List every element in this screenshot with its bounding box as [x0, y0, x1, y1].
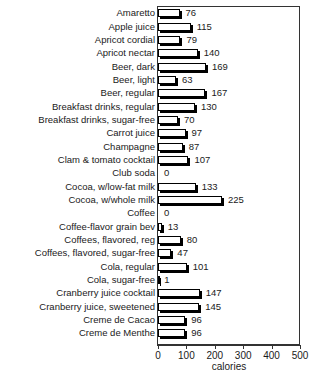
bar-row: Cranberry juice, sweetened145 [0, 301, 310, 314]
bar-row: Cocoa, w/whole milk225 [0, 194, 310, 207]
bar-row: Apricot cordial79 [0, 34, 310, 47]
bar-value-label: 13 [168, 222, 179, 232]
category-label: Beer, regular [101, 88, 155, 98]
bar-value-label: 97 [192, 128, 203, 138]
bar [158, 76, 176, 84]
category-label: Cocoa, w/whole milk [68, 195, 155, 205]
bar-value-label: 96 [191, 315, 202, 325]
bar [158, 223, 162, 231]
bar-value-label: 145 [205, 302, 221, 312]
bar-value-label: 96 [191, 328, 202, 338]
bar-row: Cola, sugar-free1 [0, 274, 310, 287]
bar [158, 263, 187, 271]
category-label: Amaretto [116, 8, 155, 18]
category-label: Apple juice [109, 22, 155, 32]
category-label: Cranberry juice cocktail [56, 288, 155, 298]
bar-value-label: 79 [186, 35, 197, 45]
bar-fill [158, 249, 171, 257]
bar-value-label: 87 [189, 142, 200, 152]
bar-fill [158, 49, 198, 57]
bar-row: Beer, dark169 [0, 61, 310, 74]
bar [158, 289, 200, 297]
bar-value-label: 70 [184, 115, 195, 125]
category-label: Coffees, flavored, reg [64, 235, 155, 245]
bar-row: Apple juice115 [0, 21, 310, 34]
bar-row: Amaretto76 [0, 7, 310, 20]
bar [158, 9, 180, 17]
bar-fill [158, 116, 178, 124]
bar-fill [158, 329, 185, 337]
x-tick-label: 100 [178, 350, 195, 361]
category-label: Breakfast drinks, sugar-free [38, 115, 155, 125]
category-label: Apricot nectar [96, 48, 155, 58]
bar-fill [158, 143, 183, 151]
x-tick-label: 500 [292, 350, 309, 361]
bar [158, 143, 183, 151]
bar [158, 316, 185, 324]
bar-row: Creme de Menthe96 [0, 327, 310, 340]
bar [158, 249, 171, 257]
bar-value-label: 0 [164, 168, 169, 178]
x-axis-title: calories [157, 361, 301, 372]
bar-row: Coffees, flavored, sugar-free47 [0, 247, 310, 260]
bar-value-label: 76 [186, 8, 197, 18]
category-label: Coffee-flavor grain bev [59, 222, 155, 232]
bar-fill [158, 156, 188, 164]
category-label: Coffee [127, 208, 155, 218]
bar-row: Creme de Cacao96 [0, 314, 310, 327]
bar [158, 196, 222, 204]
x-tick [272, 345, 273, 349]
x-tick-label: 200 [206, 350, 223, 361]
calories-bar-chart: Amaretto76Apple juice115Apricot cordial7… [0, 0, 310, 373]
x-tick-label: 300 [235, 350, 252, 361]
bar-value-label: 1 [164, 275, 169, 285]
category-label: Creme de Menthe [79, 328, 155, 338]
bar-value-label: 0 [164, 208, 169, 218]
category-label: Breakfast drinks, regular [52, 102, 155, 112]
x-axis-line [157, 345, 301, 346]
x-tick [300, 345, 301, 349]
bar [158, 63, 206, 71]
bar-fill [158, 9, 180, 17]
bar-value-label: 107 [194, 155, 210, 165]
bar [158, 23, 191, 31]
bar-value-label: 63 [182, 75, 193, 85]
bar-row: Coffee0 [0, 207, 310, 220]
category-label: Champagne [103, 142, 155, 152]
bar-fill [158, 276, 160, 284]
bar-row: Breakfast drinks, sugar-free70 [0, 114, 310, 127]
bar-row: Carrot juice97 [0, 127, 310, 140]
category-label: Clam & tomato cocktail [58, 155, 155, 165]
bar-row: Cola, regular101 [0, 261, 310, 274]
bar [158, 49, 198, 57]
bar-fill [158, 103, 195, 111]
bar-row: Apricot nectar140 [0, 47, 310, 60]
bar-fill [158, 23, 191, 31]
category-label: Carrot juice [106, 128, 155, 138]
bar-value-label: 169 [212, 62, 228, 72]
bar [158, 276, 159, 284]
x-tick [186, 345, 187, 349]
bar [158, 129, 186, 137]
category-label: Club soda [112, 168, 155, 178]
bar-fill [158, 289, 200, 297]
bar [158, 236, 181, 244]
bar-fill [158, 316, 185, 324]
bar-row: Beer, light63 [0, 74, 310, 87]
bar-fill [158, 63, 206, 71]
bar-value-label: 147 [206, 288, 222, 298]
bar [158, 329, 185, 337]
bar-shadow [160, 278, 161, 286]
bar-value-label: 101 [193, 262, 209, 272]
category-label: Apricot cordial [95, 35, 155, 45]
category-label: Cola, regular [101, 262, 155, 272]
bar-value-label: 225 [228, 195, 244, 205]
bar-fill [158, 129, 186, 137]
bar-fill [158, 196, 222, 204]
bar [158, 183, 196, 191]
x-tick [158, 345, 159, 349]
bar-row: Breakfast drinks, regular130 [0, 101, 310, 114]
bar-fill [158, 263, 187, 271]
bar-fill [158, 303, 199, 311]
x-tick [215, 345, 216, 349]
